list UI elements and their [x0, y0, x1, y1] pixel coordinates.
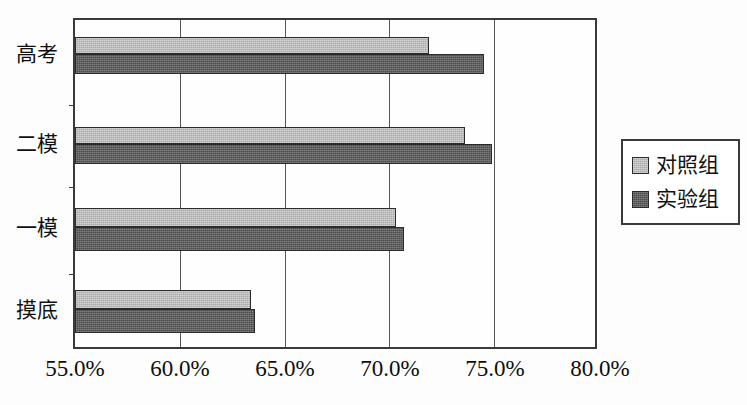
legend-item-experiment: 实验组: [632, 182, 738, 216]
x-axis-label-60: 60.0%: [125, 354, 235, 384]
plot-area: [73, 18, 597, 349]
bar-modi-experiment: [75, 309, 255, 333]
x-axis-label-55: 55.0%: [20, 354, 130, 384]
bar-ermo-control: [75, 127, 465, 144]
legend-label-experiment: 实验组: [656, 188, 719, 210]
bar-yimo-control: [75, 208, 396, 227]
x-axis-label-80: 80.0%: [545, 354, 655, 384]
legend-item-control: 对照组: [632, 148, 738, 182]
y-axis-label-yimo: 一模: [4, 217, 70, 239]
y-axis-label-gaokao: 高考: [4, 43, 70, 65]
bar-yimo-experiment: [75, 227, 404, 251]
legend-swatch-icon-experiment: [632, 191, 649, 208]
legend-swatch-icon-control: [632, 157, 649, 174]
x-axis-label-75: 75.0%: [440, 354, 550, 384]
y-axis-label-modi: 摸底: [4, 299, 70, 321]
bar-modi-control: [75, 290, 251, 309]
bar-chart: 高考 二模 一模 摸底 55.0% 60.0% 65.0% 70.0% 75.0…: [0, 0, 747, 405]
y-axis-label-ermo: 二模: [4, 133, 70, 155]
x-axis-label-65: 65.0%: [230, 354, 340, 384]
gridline-75: [494, 20, 495, 347]
bar-gaokao-experiment: [75, 54, 484, 74]
chart-legend: 对照组 实验组: [621, 139, 740, 225]
x-axis-label-70: 70.0%: [335, 354, 445, 384]
x-axis-labels: 55.0% 60.0% 65.0% 70.0% 75.0% 80.0%: [0, 354, 747, 388]
y-axis-labels: 高考 二模 一模 摸底: [0, 18, 70, 349]
bar-gaokao-control: [75, 37, 429, 54]
bar-ermo-experiment: [75, 144, 492, 164]
legend-label-control: 对照组: [656, 154, 719, 176]
